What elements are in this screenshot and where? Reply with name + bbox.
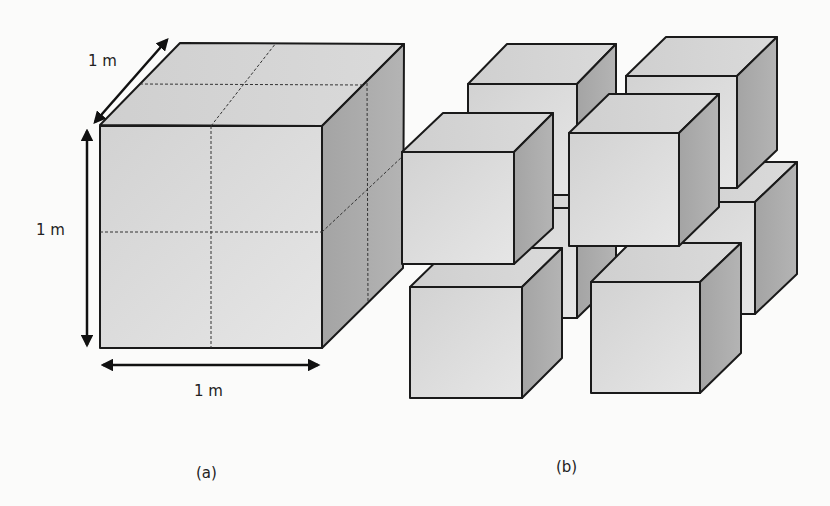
caption-b: (b) [556,458,577,476]
cube-front-right-bottom [591,243,741,393]
width-label: 1 m [194,382,223,400]
caption-a: (a) [196,464,217,482]
depth-label: 1 m [88,52,117,70]
height-label: 1 m [36,221,65,239]
cube-front-left-bottom [410,248,562,398]
cube-front-left-top [402,113,553,264]
cube-diagram [0,0,830,506]
panel-a-big-cube [100,43,404,348]
cube-front-right-top [569,94,719,246]
